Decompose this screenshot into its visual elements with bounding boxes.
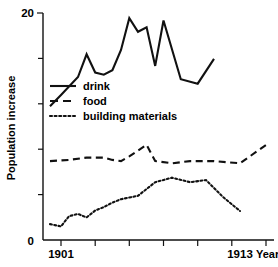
chart-canvas: 20 0 1901 1913 Year Population increase … (0, 0, 278, 267)
x-axis-ticks (61, 240, 266, 246)
x-axis-start-label: 1901 (48, 248, 74, 260)
series-line-food (50, 145, 266, 163)
series-line-drink (50, 18, 214, 106)
x-axis-title: Year (256, 248, 278, 260)
x-axis-end-label: 1913 (227, 248, 253, 260)
legend-label-drink: drink (83, 80, 111, 92)
y-axis-max-label: 20 (21, 7, 34, 19)
chart-legend: drink food building materials (50, 80, 177, 122)
population-increase-line-chart: 20 0 1901 1913 Year Population increase … (0, 0, 278, 267)
y-axis-title: Population increase (5, 76, 17, 181)
y-axis-ticks (37, 13, 43, 195)
series-line-building-materials (50, 178, 240, 227)
legend-label-food: food (83, 95, 107, 107)
y-axis-min-label: 0 (28, 235, 34, 247)
legend-label-building-materials: building materials (83, 110, 177, 122)
